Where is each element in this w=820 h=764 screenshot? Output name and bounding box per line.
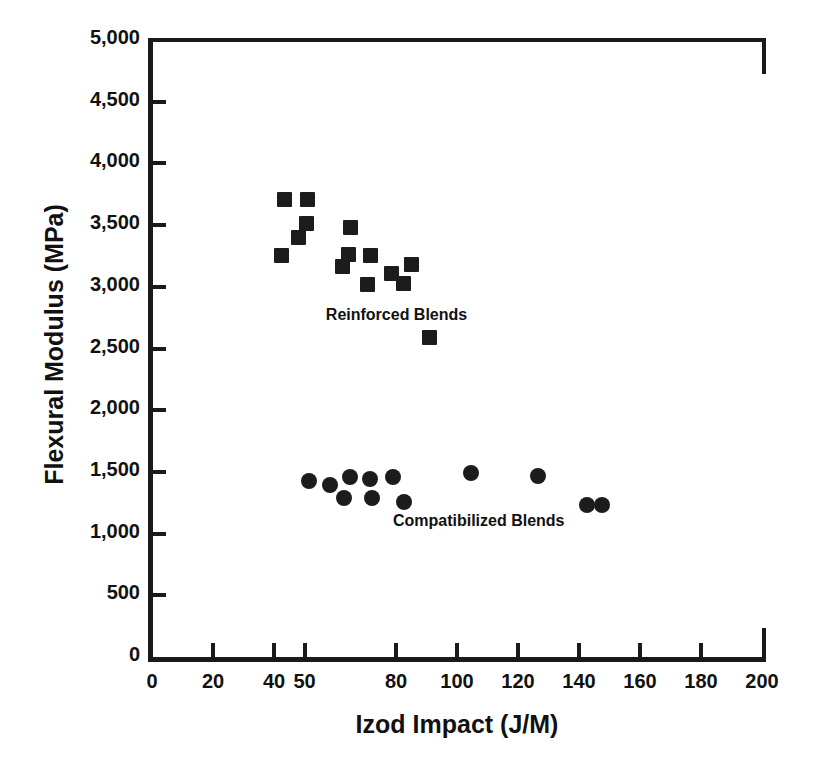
axis-spine-bottom	[148, 657, 766, 662]
y-axis-tick-label: 500	[107, 581, 140, 604]
x-axis-tick	[394, 643, 398, 657]
x-axis-tick-label: 140	[562, 670, 595, 693]
y-axis-tick	[153, 470, 166, 474]
y-axis-tick	[153, 100, 166, 104]
data-point-square	[274, 248, 289, 263]
y-axis-tick-label: 1,000	[90, 520, 140, 543]
y-axis-tick-label: 0	[129, 643, 140, 666]
y-axis-tick	[153, 223, 166, 227]
data-point-square	[422, 330, 437, 345]
data-point-square	[277, 192, 292, 207]
plot-area: Reinforced BlendsCompatibilized Blends	[148, 38, 766, 662]
x-axis-tick	[638, 643, 642, 657]
y-axis-tick-label: 4,000	[90, 149, 140, 172]
data-point-circle	[301, 473, 317, 489]
y-axis-tick	[153, 161, 166, 165]
data-point-square	[335, 259, 350, 274]
data-point-square	[363, 248, 378, 263]
y-axis-tick-label: 3,000	[90, 273, 140, 296]
y-axis-tick	[153, 408, 166, 412]
series-label-square: Reinforced Blends	[326, 306, 467, 324]
y-axis-tick-label: 2,500	[90, 335, 140, 358]
y-axis-tick-label: 2,000	[90, 396, 140, 419]
data-point-circle	[362, 471, 378, 487]
y-axis-tick-label: 1,500	[90, 458, 140, 481]
y-axis-tick-label-group: 05001,0001,5002,0002,5003,0003,5004,0004…	[0, 0, 140, 764]
data-point-circle	[579, 497, 595, 513]
x-axis-tick-label: 50	[293, 670, 315, 693]
data-point-circle	[530, 468, 546, 484]
x-axis-tick-label: 80	[385, 670, 407, 693]
axis-spine-right-upper	[762, 38, 766, 74]
y-axis-tick	[153, 347, 166, 351]
x-axis-tick-label: 120	[501, 670, 534, 693]
y-axis-tick	[153, 532, 166, 536]
y-axis-tick-label: 3,500	[90, 211, 140, 234]
x-axis-tick	[455, 643, 459, 657]
x-axis-tick-label: 100	[440, 670, 473, 693]
data-point-square	[360, 277, 375, 292]
data-point-circle	[336, 490, 352, 506]
y-axis-tick	[153, 593, 166, 597]
x-axis-tick-label: 160	[623, 670, 656, 693]
data-point-circle	[364, 490, 380, 506]
y-axis-tick	[153, 285, 166, 289]
scatter-chart-figure: 05001,0001,5002,0002,5003,0003,5004,0004…	[0, 0, 820, 764]
data-point-circle	[594, 497, 610, 513]
y-axis-tick-label: 4,500	[90, 88, 140, 111]
x-axis-tick-label: 40	[263, 670, 285, 693]
data-point-circle	[322, 477, 338, 493]
y-axis-title: Flexural Modulus (MPa)	[40, 85, 69, 605]
x-axis-tick	[211, 643, 215, 657]
data-point-circle	[385, 469, 401, 485]
x-axis-title: Izod Impact (J/M)	[148, 710, 766, 739]
data-point-square	[291, 230, 306, 245]
data-point-square	[396, 276, 411, 291]
x-axis-tick-label: 20	[202, 670, 224, 693]
data-point-square	[404, 257, 419, 272]
data-point-circle	[342, 469, 358, 485]
y-axis-tick-label: 5,000	[90, 26, 140, 49]
data-point-square	[300, 192, 315, 207]
x-axis-tick	[516, 643, 520, 657]
x-axis-tick-label: 0	[146, 670, 157, 693]
axis-spine-top	[148, 38, 766, 42]
x-axis-tick	[303, 643, 307, 657]
data-point-square	[343, 220, 358, 235]
series-label-circle: Compatibilized Blends	[393, 512, 565, 530]
x-axis-tick-label: 200	[745, 670, 778, 693]
x-axis-tick	[272, 643, 276, 657]
x-axis-tick	[699, 643, 703, 657]
data-point-circle	[463, 465, 479, 481]
data-point-circle	[396, 494, 412, 510]
x-axis-tick	[577, 643, 581, 657]
x-axis-tick-label: 180	[684, 670, 717, 693]
